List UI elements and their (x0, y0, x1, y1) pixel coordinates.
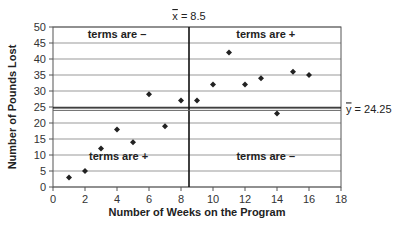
data-point (146, 91, 152, 97)
x-tick-label: 6 (146, 193, 152, 205)
data-point (162, 123, 168, 129)
gridlines (53, 27, 341, 187)
data-point (114, 126, 120, 132)
y-tick-label: 45 (34, 37, 46, 49)
data-point (82, 168, 88, 174)
data-point (226, 50, 232, 56)
y-axis-label: Number of Pounds Lost (6, 44, 18, 169)
x-tick-label: 0 (50, 193, 56, 205)
x-tick-label: 12 (239, 193, 251, 205)
data-point (290, 69, 296, 75)
data-point (66, 174, 72, 180)
quadrant-label-top-right: terms are + (236, 28, 295, 40)
data-point (210, 82, 216, 88)
data-point (242, 82, 248, 88)
y-tick-label: 50 (34, 21, 46, 33)
x-tick-label: 4 (114, 193, 120, 205)
x-tick-label: 2 (82, 193, 88, 205)
data-point (130, 139, 136, 145)
y-mean-label: y = 24.25 (346, 103, 392, 115)
y-tick-label: 35 (34, 69, 46, 81)
quadrant-label-bottom-right: terms are – (236, 150, 295, 162)
x-tick-label: 16 (303, 193, 315, 205)
x-tick-label: 10 (207, 193, 219, 205)
x-mean-label: x = 8.5 (172, 10, 205, 22)
data-point (194, 98, 200, 104)
y-tick-label: 15 (34, 133, 46, 145)
y-tick-label: 5 (40, 165, 46, 177)
quadrant-annotations: terms are –terms are +terms are +terms a… (88, 28, 296, 162)
x-tick-label: 14 (271, 193, 283, 205)
y-tick-label: 40 (34, 53, 46, 65)
y-tick-label: 25 (34, 101, 46, 113)
y-tick-label: 20 (34, 117, 46, 129)
scatter-chart: 05101520253035404550 024681012141618 x =… (0, 0, 400, 232)
x-axis-label: Number of Weeks on the Program (108, 206, 285, 218)
y-tick-label: 0 (40, 181, 46, 193)
data-point (258, 75, 264, 81)
data-point (306, 72, 312, 78)
y-axis-ticks: 05101520253035404550 (34, 21, 53, 193)
x-tick-label: 8 (178, 193, 184, 205)
x-tick-label: 18 (335, 193, 347, 205)
data-point (274, 110, 280, 116)
data-point (178, 98, 184, 104)
x-axis-ticks: 024681012141618 (50, 187, 347, 205)
y-tick-label: 30 (34, 85, 46, 97)
quadrant-label-bottom-left: terms are + (89, 150, 148, 162)
quadrant-label-top-left: terms are – (88, 28, 147, 40)
y-tick-label: 10 (34, 149, 46, 161)
